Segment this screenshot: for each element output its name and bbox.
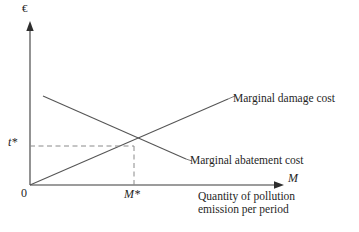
- marginal-abatement-cost-curve: [43, 96, 186, 159]
- diagram-canvas: [0, 0, 359, 232]
- m-star-label: M*: [124, 188, 140, 201]
- origin-label: 0: [21, 187, 27, 200]
- x-axis-variable-label: M: [288, 172, 298, 185]
- x-axis-caption-line-1: Quantity of pollution: [198, 190, 295, 203]
- marginal-abatement-cost-label: Marginal abatement cost: [190, 154, 303, 167]
- x-axis-caption-line-2: emission per period: [198, 203, 295, 216]
- marginal-damage-cost-label: Marginal damage cost: [233, 92, 335, 105]
- euro-currency-symbol: €: [22, 2, 28, 14]
- marginal-damage-cost-curve: [30, 99, 228, 185]
- x-axis-caption: Quantity of pollution emission per perio…: [198, 190, 295, 216]
- x-axis: [30, 181, 284, 188]
- y-axis: [26, 21, 33, 185]
- pollution-tax-diagram: € t* M* 0 M Marginal damage cost Margina…: [0, 0, 359, 232]
- t-star-label: t*: [8, 136, 17, 149]
